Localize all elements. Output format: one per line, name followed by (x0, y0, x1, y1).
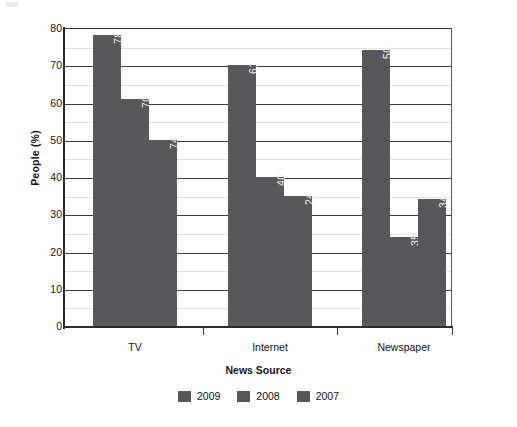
scan-artifact (6, 2, 18, 7)
legend-swatch-icon (237, 391, 250, 402)
x-axis-line (63, 326, 453, 328)
x-category-label: Internet (252, 341, 288, 353)
y-tick-label: 0 (56, 320, 62, 332)
bar-value-label: 50 (381, 47, 393, 59)
bar-value-label: 74 (168, 136, 180, 148)
bar-series-group: 787074614024503534 (65, 29, 451, 326)
bar (93, 35, 121, 326)
bar (149, 140, 177, 326)
y-tick-label: 60 (50, 97, 62, 109)
x-tick-mark (203, 327, 204, 335)
y-axis-ticks: 01020304050607080 (26, 0, 62, 340)
bar (256, 177, 284, 326)
y-tick-label: 20 (50, 246, 62, 258)
bar-value-label: 40 (275, 174, 287, 186)
bar-value-label: 70 (140, 95, 152, 107)
y-tick-label: 10 (50, 283, 62, 295)
x-tick-mark (452, 327, 453, 335)
legend-label: 2009 (197, 390, 220, 402)
bar-value-label: 78 (112, 32, 124, 44)
bar-chart-figure: People (%) 01020304050607080 78707461402… (0, 0, 517, 427)
bar (284, 196, 312, 326)
x-axis-title: News Source (0, 364, 517, 376)
legend-swatch-icon (297, 391, 310, 402)
bar (390, 237, 418, 326)
plot-area: 787074614024503534 (65, 28, 452, 326)
legend-item-2007[interactable]: 2007 (297, 390, 339, 402)
y-tick-label: 70 (50, 59, 62, 71)
y-axis-line (63, 27, 65, 329)
y-tick-label: 30 (50, 208, 62, 220)
chart-legend: 200920082007 (0, 390, 517, 402)
bar (362, 50, 390, 326)
bar (121, 99, 149, 326)
legend-item-2009[interactable]: 2009 (178, 390, 220, 402)
bar (228, 65, 256, 326)
x-category-label: TV (128, 341, 141, 353)
y-tick-label: 50 (50, 134, 62, 146)
y-tick-label: 80 (50, 22, 62, 34)
bar-value-label: 34 (437, 196, 449, 208)
legend-item-2008[interactable]: 2008 (237, 390, 279, 402)
y-tick-label: 40 (50, 171, 62, 183)
legend-label: 2007 (316, 390, 339, 402)
bar-value-label: 24 (303, 192, 315, 204)
legend-label: 2008 (256, 390, 279, 402)
bar (418, 199, 446, 326)
x-tick-mark (337, 327, 338, 335)
legend-swatch-icon (178, 391, 191, 402)
bar-value-label: 61 (247, 62, 259, 74)
x-category-label: Newspaper (377, 341, 430, 353)
